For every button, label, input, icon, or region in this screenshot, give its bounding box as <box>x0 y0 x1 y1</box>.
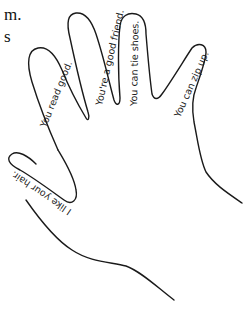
finger-label-index: You can zip up. <box>171 49 210 119</box>
finger-label-ring: You're a good friend. <box>93 9 126 108</box>
thumb-label: I like your hair. <box>9 169 73 217</box>
finger-label-pinky: You read good. <box>37 59 74 129</box>
finger-label-middle: You can tie shoes. <box>128 21 141 107</box>
hand-outline-drawing: You read good. You're a good friend. You… <box>0 0 249 316</box>
thumb-lower-edge <box>26 200 174 300</box>
